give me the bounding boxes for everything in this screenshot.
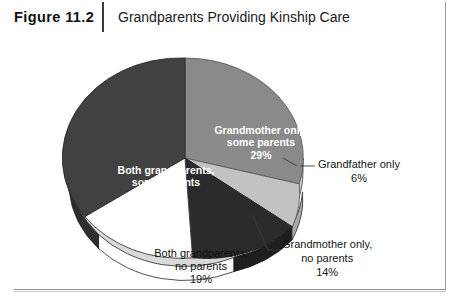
figure-frame: Figure 11.2 Grandparents Providing Kinsh… <box>0 0 462 303</box>
header-divider <box>102 2 104 32</box>
pie-callout-percent: 14% <box>282 266 372 280</box>
pie-callout-grandmother-only-no-parents: Grandmother only, no parents 14% <box>282 238 372 279</box>
frame-right-border <box>445 2 446 290</box>
pie-callout-grandfather-only: Grandfather only 6% <box>318 158 400 186</box>
pie-callout-percent: 6% <box>318 172 400 186</box>
frame-bottom-border-shadow <box>14 291 446 292</box>
figure-title: Grandparents Providing Kinship Care <box>118 9 350 25</box>
figure-header: Figure 11.2 Grandparents Providing Kinsh… <box>0 0 462 36</box>
pie-callout-label-line2: no parents <box>282 252 372 266</box>
pie-callout-label-line1: Grandmother only, <box>282 238 372 252</box>
pie-callout-label: Grandfather only <box>318 158 400 172</box>
figure-number: Figure 11.2 <box>14 9 94 25</box>
pie-top-face <box>62 58 303 259</box>
